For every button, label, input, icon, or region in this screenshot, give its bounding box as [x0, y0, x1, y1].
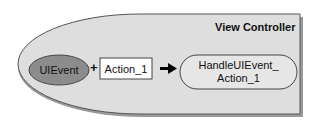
handler-label-line2: Action_1: [180, 72, 297, 84]
container-label: View Controller: [215, 21, 295, 33]
handler-label-line1: HandleUIEvent_: [180, 59, 297, 71]
uievent-label: UIEvent: [29, 64, 89, 76]
plus-operator: +: [90, 62, 98, 74]
action-label: Action_1: [100, 63, 152, 75]
